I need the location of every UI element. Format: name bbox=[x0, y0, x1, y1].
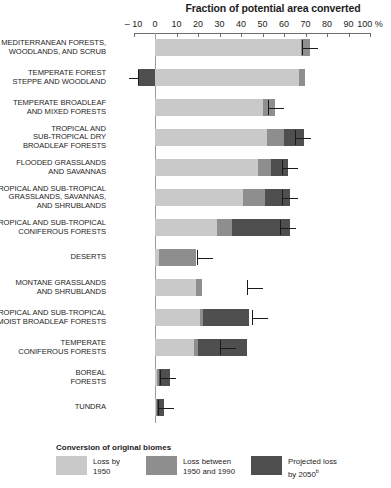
x-axis-label-30: 30 bbox=[214, 19, 224, 29]
chart-row[interactable]: TUNDRA bbox=[0, 399, 391, 416]
row-label-line: BROADLEAF FORESTS bbox=[0, 142, 106, 151]
row-label-line: DESERTS bbox=[0, 253, 106, 262]
row-label-line: MOIST BROADLEAF FORESTS bbox=[0, 318, 106, 327]
legend-item[interactable]: Projected lossby 2050b bbox=[251, 456, 337, 479]
x-axis-label-60: 60 bbox=[279, 19, 289, 29]
x-axis-label--10: – 10 bbox=[125, 19, 143, 29]
legend-label: Loss by1950 bbox=[93, 456, 120, 476]
chart-row[interactable]: MONTANE GRASSLANDSAND SHRUBLANDS bbox=[0, 279, 391, 296]
x-axis-label-20: 20 bbox=[193, 19, 203, 29]
row-label: TROPICAL AND SUB-TROPICALCONIFEROUS FORE… bbox=[0, 219, 106, 236]
row-label-line: AND MIXED FORESTS bbox=[0, 108, 106, 117]
x-axis-label-90: 90 bbox=[343, 19, 353, 29]
chart-row[interactable]: BOREALFORESTS bbox=[0, 369, 391, 386]
x-axis-label-70: 70 bbox=[300, 19, 310, 29]
row-label: TUNDRA bbox=[0, 403, 106, 412]
legend-item[interactable]: Loss between1950 and 1990 bbox=[146, 456, 235, 476]
chart-row[interactable]: TEMPERATECONIFEROUS FORESTS bbox=[0, 339, 391, 356]
row-label: MONTANE GRASSLANDSAND SHRUBLANDS bbox=[0, 279, 106, 296]
row-label-line: WOODLANDS, AND SCRUB bbox=[0, 48, 106, 57]
legend: Conversion of original biomes Loss by195… bbox=[56, 443, 391, 480]
plot-area: MEDITERRANEAN FORESTS,WOODLANDS, AND SCR… bbox=[0, 37, 391, 427]
bar-segment-loss-1950-1990[interactable] bbox=[299, 69, 305, 86]
bar-segment-loss-1950-1990[interactable] bbox=[196, 279, 202, 296]
bar-segment-projected-2050[interactable] bbox=[203, 309, 248, 326]
bar-segment-loss-1950[interactable] bbox=[155, 99, 263, 116]
row-label-line: CONIFEROUS FORESTS bbox=[0, 348, 106, 357]
footnote-marker: b bbox=[316, 468, 319, 474]
legend-label-line: 1950 and 1990 bbox=[183, 467, 235, 477]
bar-segment-loss-1950-1990[interactable] bbox=[267, 129, 284, 146]
row-label-line: AND SHRUBLANDS bbox=[0, 288, 106, 297]
legend-swatch-projected-2050 bbox=[251, 456, 282, 475]
x-axis-label-40: 40 bbox=[236, 19, 246, 29]
bar-segment-loss-1950[interactable] bbox=[155, 309, 200, 326]
x-axis-tick-labels: – 100102030405060708090100 % bbox=[0, 19, 391, 31]
row-label: TROPICAL ANDSUB-TROPICAL DRYBROADLEAF FO… bbox=[0, 125, 106, 151]
x-axis-label-0: 0 bbox=[152, 19, 157, 29]
row-label-line: AND SAVANNAS bbox=[0, 168, 106, 177]
row-label-line: FORESTS bbox=[0, 378, 106, 387]
error-bar-whisker bbox=[220, 348, 236, 349]
error-bar-whisker bbox=[160, 378, 176, 379]
bar-segment-loss-1950[interactable] bbox=[155, 219, 217, 236]
bar-segment-loss-1950[interactable] bbox=[155, 129, 267, 146]
bar-segment-loss-1950-1990[interactable] bbox=[243, 189, 265, 206]
legend-label-line: Loss between bbox=[183, 457, 235, 467]
legend-label: Projected lossby 2050b bbox=[288, 456, 337, 479]
row-label-line: AND SHRUBLANDS bbox=[0, 202, 106, 211]
row-label: TEMPERATECONIFEROUS FORESTS bbox=[0, 339, 106, 356]
row-label-line: STEPPE AND WOODLAND bbox=[0, 78, 106, 87]
bar-segment-loss-1950-1990[interactable] bbox=[217, 219, 232, 236]
chart-row[interactable]: TROPICAL ANDSUB-TROPICAL DRYBROADLEAF FO… bbox=[0, 129, 391, 146]
row-label: TEMPERATE FORESTSTEPPE AND WOODLAND bbox=[0, 69, 106, 86]
row-label-line: TUNDRA bbox=[0, 403, 106, 412]
error-bar-whisker bbox=[252, 318, 268, 319]
chart-row[interactable]: MEDITERRANEAN FORESTS,WOODLANDS, AND SCR… bbox=[0, 39, 391, 56]
legend-label-line: Loss by bbox=[93, 457, 120, 467]
chart-row[interactable]: DESERTS bbox=[0, 249, 391, 266]
bar-segment-negative[interactable] bbox=[138, 69, 155, 86]
x-axis-label-80: 80 bbox=[322, 19, 332, 29]
x-axis-label-50: 50 bbox=[257, 19, 267, 29]
legend-swatch-loss-1950-1990 bbox=[146, 456, 177, 475]
row-label: TEMPERATE BROADLEAFAND MIXED FORESTS bbox=[0, 99, 106, 116]
error-bar-whisker bbox=[282, 168, 298, 169]
error-bar-whisker bbox=[280, 228, 296, 229]
x-axis-baseline bbox=[134, 33, 371, 34]
error-bar-whisker bbox=[129, 78, 138, 79]
legend-label: Loss between1950 and 1990 bbox=[183, 456, 235, 476]
chart-row[interactable]: TEMPERATE BROADLEAFAND MIXED FORESTS bbox=[0, 99, 391, 116]
legend-label-line: Projected loss bbox=[288, 457, 337, 467]
legend-title: Conversion of original biomes bbox=[56, 443, 391, 452]
chart-row[interactable]: TROPICAL AND SUB-TROPICALGRASSLANDS, SAV… bbox=[0, 189, 391, 206]
bar-segment-loss-1950[interactable] bbox=[155, 339, 194, 356]
bar-segment-loss-1950[interactable] bbox=[155, 69, 299, 86]
legend-label-line: 1950 bbox=[93, 467, 120, 477]
error-bar-cap bbox=[138, 70, 139, 85]
row-label: MEDITERRANEAN FORESTS,WOODLANDS, AND SCR… bbox=[0, 39, 106, 56]
chart-row[interactable]: TEMPERATE FORESTSTEPPE AND WOODLAND bbox=[0, 69, 391, 86]
bar-segment-loss-1950[interactable] bbox=[155, 39, 301, 56]
error-bar-whisker bbox=[158, 408, 174, 409]
bar-segment-loss-1950[interactable] bbox=[155, 279, 196, 296]
bar-segment-loss-1950-1990[interactable] bbox=[159, 249, 196, 266]
legend-items: Loss by1950Loss between1950 and 1990Proj… bbox=[56, 456, 391, 480]
legend-label-line: by 2050b bbox=[288, 467, 337, 479]
legend-swatch-loss-1950 bbox=[56, 456, 87, 475]
error-bar-whisker bbox=[197, 258, 213, 259]
error-bar-whisker bbox=[295, 138, 311, 139]
bar-segment-loss-1950[interactable] bbox=[155, 189, 243, 206]
legend-item[interactable]: Loss by1950 bbox=[56, 456, 120, 476]
chart-row[interactable]: TROPICAL AND SUB-TROPICALMOIST BROADLEAF… bbox=[0, 309, 391, 326]
error-bar-whisker bbox=[302, 48, 318, 49]
error-bar-whisker bbox=[247, 288, 263, 289]
row-label: TROPICAL AND SUB-TROPICALMOIST BROADLEAF… bbox=[0, 309, 106, 326]
error-bar-whisker bbox=[268, 108, 284, 109]
bar-segment-loss-1950[interactable] bbox=[155, 159, 258, 176]
chart-row[interactable]: TROPICAL AND SUB-TROPICALCONIFEROUS FORE… bbox=[0, 219, 391, 236]
bar-segment-loss-1950-1990[interactable] bbox=[258, 159, 271, 176]
chart-title: Fraction of potential area converted bbox=[155, 2, 391, 14]
row-label: DESERTS bbox=[0, 253, 106, 262]
chart-row[interactable]: FLOODED GRASSLANDSAND SAVANNAS bbox=[0, 159, 391, 176]
